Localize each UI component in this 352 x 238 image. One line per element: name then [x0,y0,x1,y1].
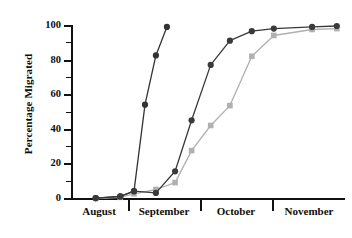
data-point-marker [131,188,137,194]
data-point-marker [334,23,340,29]
plot-area [0,0,352,238]
series-line [96,26,337,198]
data-series-2 [93,23,340,201]
data-point-marker [227,103,233,109]
data-point-marker [249,28,255,34]
data-series-1 [93,24,170,201]
series-line [96,29,337,199]
data-point-marker [153,190,159,196]
chart-container: Percentage Migrated 100806040200AugustSe… [0,0,352,238]
data-point-marker [271,33,277,39]
data-point-marker [93,195,99,201]
data-point-marker [271,26,277,32]
data-point-marker [164,24,170,30]
data-point-marker [189,148,195,154]
data-point-marker [153,52,159,58]
data-point-marker [208,62,214,68]
data-point-marker [249,54,255,60]
data-series-3 [93,26,340,202]
data-point-marker [208,123,214,129]
data-point-marker [142,102,148,108]
data-point-marker [172,168,178,174]
data-point-marker [227,38,233,44]
data-point-marker [309,24,315,30]
data-point-marker [189,117,195,123]
data-point-marker [172,180,178,186]
data-point-marker [117,193,123,199]
